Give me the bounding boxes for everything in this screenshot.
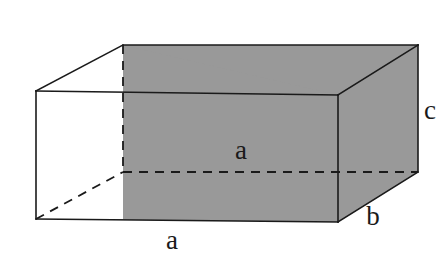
figure-canvas: a a b c xyxy=(0,0,446,260)
open-front-left-panel xyxy=(36,91,123,219)
label-depth-a: a xyxy=(235,137,247,164)
label-width-a: a xyxy=(166,227,178,254)
label-height-c: c xyxy=(424,97,436,124)
label-depth-b: b xyxy=(366,203,380,230)
